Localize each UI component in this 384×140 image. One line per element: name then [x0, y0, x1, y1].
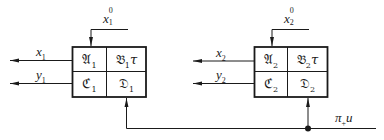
cell-symbol: 𝔄 — [264, 52, 273, 67]
cell-symbol: 𝔅 — [116, 52, 125, 67]
block-1-cell-C: ℭ1 — [73, 77, 106, 94]
block-1-input-label: x01 — [103, 12, 115, 25]
block-2-cell-D: 𝔇2 — [288, 77, 327, 94]
input-label-sup: 0 — [109, 7, 113, 15]
output-label-sub: 2 — [222, 54, 226, 63]
cell-suffix: τ — [130, 52, 137, 67]
cell-sub: 2 — [273, 85, 278, 94]
output-label-sub: 1 — [42, 76, 46, 85]
block-2-cell-A: 𝔄2 — [255, 53, 287, 70]
cell-suffix: τ — [311, 52, 318, 67]
output-label-sub: 1 — [42, 53, 46, 62]
cell-symbol: 𝔇 — [119, 76, 129, 91]
cell-symbol: ℭ — [264, 76, 273, 91]
block-2-input-label: x02 — [284, 12, 296, 25]
block-2-input-line — [272, 30, 309, 47]
cell-sub: 1 — [91, 61, 96, 70]
cell-symbol: 𝔇 — [300, 76, 310, 91]
input-label-sub: 1 — [109, 19, 113, 27]
cell-sub: 1 — [129, 85, 134, 94]
input-label-sub: 2 — [290, 19, 294, 27]
block-1-input-line — [91, 30, 128, 47]
junction-dot — [305, 126, 311, 132]
shared-input-suffix: u — [346, 110, 353, 125]
block-2-output-y-label: y2 — [216, 68, 226, 85]
cell-symbol: 𝔅 — [297, 52, 306, 67]
cell-sub: 1 — [91, 85, 96, 94]
output-label-sub: 2 — [222, 76, 226, 85]
block-2-cell-C: ℭ2 — [255, 77, 287, 94]
shared-input-label: π+u — [335, 111, 353, 128]
block-1-output-x-label: x1 — [36, 45, 46, 62]
diagram-canvas — [0, 0, 384, 140]
block-1-output-y-label: y1 — [36, 68, 46, 85]
block-2-output-x-label: x2 — [216, 46, 226, 63]
cell-sub: 2 — [310, 85, 315, 94]
block-1-cell-D: 𝔇1 — [107, 77, 146, 94]
block-1-cell-A: 𝔄1 — [73, 53, 106, 70]
block-1-cell-B: 𝔅1τ — [107, 53, 146, 70]
block-2-cell-B: 𝔅2τ — [288, 53, 327, 70]
cell-sub: 2 — [273, 61, 278, 70]
input-label-sup: 0 — [290, 7, 294, 15]
